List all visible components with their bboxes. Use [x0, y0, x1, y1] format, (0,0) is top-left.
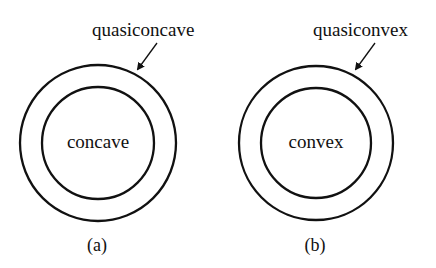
diagram-canvas	[0, 0, 436, 268]
label-quasiconvex: quasiconvex	[313, 20, 408, 39]
caption-a: (a)	[87, 236, 107, 254]
label-convex: convex	[289, 132, 344, 151]
label-quasiconcave: quasiconcave	[92, 20, 194, 39]
caption-b: (b)	[305, 236, 326, 254]
arrow-quasiconcave	[138, 43, 157, 69]
arrow-quasiconvex	[356, 43, 375, 69]
label-concave: concave	[67, 132, 129, 151]
